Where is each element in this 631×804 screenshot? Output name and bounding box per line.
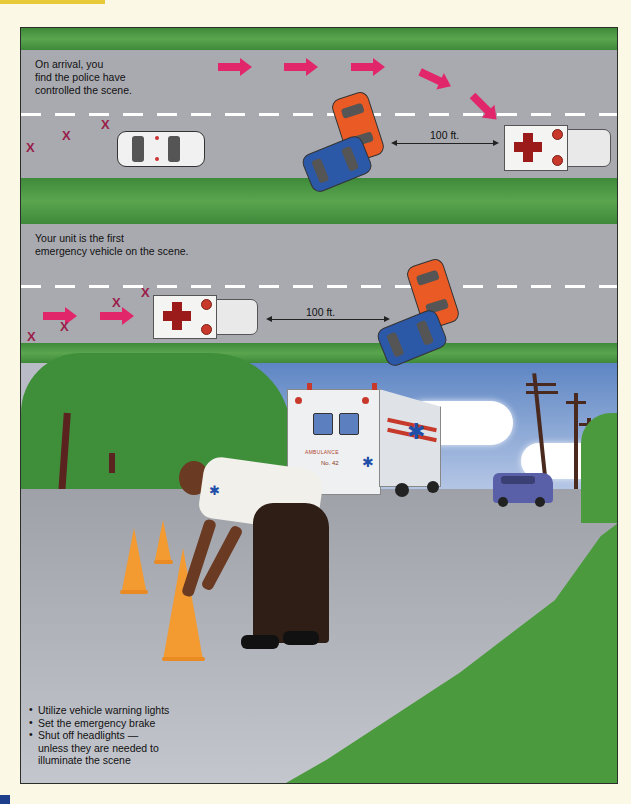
car-window <box>501 476 535 484</box>
red-cross-icon <box>163 311 191 321</box>
warning-light-icon <box>201 299 212 310</box>
warning-light-icon <box>552 129 563 140</box>
rear-window <box>313 413 333 435</box>
hazard-x-icon: X <box>112 296 121 309</box>
hazard-x-icon: X <box>27 330 36 343</box>
car-window <box>341 146 359 172</box>
distant-car-icon <box>493 473 553 503</box>
hazard-x-icon: X <box>101 118 110 131</box>
wheel <box>498 497 508 507</box>
scene-illustration: ✱ ✱ AMBULANCE No. 42 ✱ <box>21 343 617 783</box>
hazard-x-icon: X <box>141 286 150 299</box>
distance-label: 100 ft. <box>430 129 459 141</box>
tree-stump <box>109 453 115 473</box>
roof-light-icon <box>372 383 377 390</box>
wheel <box>535 497 545 507</box>
route-arrow-icon <box>100 312 124 320</box>
cone-base <box>120 590 148 594</box>
red-cross-icon <box>514 142 542 152</box>
siren-light-icon <box>155 136 159 140</box>
caption-line: controlled the scene. <box>35 84 132 97</box>
top-accent-tab <box>0 0 105 4</box>
warning-light-icon <box>295 397 302 404</box>
cone-base <box>162 657 205 661</box>
right-bushes <box>581 413 617 523</box>
caption-line: emergency vehicle on the scene. <box>35 245 189 258</box>
utility-pole-crossbar <box>566 401 586 404</box>
caption-line: Your unit is the first <box>35 232 189 245</box>
distance-arrow-icon <box>268 319 388 320</box>
lane-divider <box>21 285 617 288</box>
utility-pole-crossbar <box>526 383 556 386</box>
safety-checklist: Utilize vehicle warning lights Set the e… <box>29 704 169 767</box>
utility-pole-crossbar <box>526 391 558 394</box>
car-window <box>311 158 329 184</box>
siren-light-icon <box>155 157 159 161</box>
traffic-cone-icon <box>122 528 146 590</box>
car-window <box>386 332 404 358</box>
illustration-frame: On arrival, you find the police have con… <box>20 27 618 784</box>
grass-strip <box>21 28 617 50</box>
hazard-x-icon: X <box>26 141 35 154</box>
distance-label: 100 ft. <box>306 306 335 318</box>
route-arrow-icon <box>351 63 375 71</box>
caption-line: On arrival, you <box>35 58 132 71</box>
lane-divider <box>21 113 617 116</box>
checklist-item: Set the emergency brake <box>29 717 169 730</box>
ambulance-cab <box>567 129 611 167</box>
distance-arrow-icon <box>393 143 497 144</box>
warning-light-icon <box>201 324 212 335</box>
caption-line: find the police have <box>35 71 132 84</box>
emt-shoe <box>283 631 319 645</box>
star-of-life-icon: ✱ <box>362 455 374 469</box>
emt-shoe <box>241 635 279 649</box>
route-arrow-icon <box>284 63 308 71</box>
star-of-life-icon: ✱ <box>407 421 425 443</box>
checklist-item: Utilize vehicle warning lights <box>29 704 169 717</box>
caption-arrival: On arrival, you find the police have con… <box>35 58 132 97</box>
car-window <box>341 103 365 119</box>
warning-light-icon <box>362 397 369 404</box>
rear-window <box>339 413 359 435</box>
car-window <box>168 136 180 162</box>
utility-pole-icon <box>574 393 578 493</box>
car-window <box>416 320 434 346</box>
car-window <box>132 136 144 162</box>
ambulance-cab <box>216 299 258 335</box>
wheel <box>427 481 439 493</box>
roof-light-icon <box>307 383 312 390</box>
ambulance-number: No. 42 <box>321 460 339 466</box>
ambulance-label: AMBULANCE <box>305 449 339 455</box>
corner-marker <box>0 795 10 804</box>
route-arrow-icon <box>218 63 242 71</box>
police-car-icon <box>117 131 205 167</box>
wheel <box>395 483 409 497</box>
warning-light-icon <box>552 155 563 166</box>
checklist-item: Shut off headlights — unless they are ne… <box>29 729 168 767</box>
hazard-x-icon: X <box>62 129 71 142</box>
star-of-life-icon: ✱ <box>209 483 220 498</box>
emt-trousers <box>253 503 329 643</box>
caption-first-unit: Your unit is the first emergency vehicle… <box>35 232 189 258</box>
hazard-x-icon: X <box>60 320 69 333</box>
car-window <box>416 270 440 286</box>
